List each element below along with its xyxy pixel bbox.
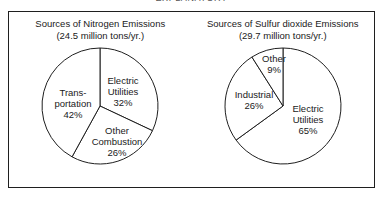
sulfur-chart-title: Sources of Sulfur dioxide Emissions (29.… [192,18,375,42]
clipped-top-title: EXPLANATORY [0,0,383,5]
panel-sulfur-dioxide-emissions: Sources of Sulfur dioxide Emissions (29.… [192,12,375,187]
sulfur-pie-chart: ElectricUtilities65%Industrial26%Other9% [218,42,348,172]
nitrogen-title-line-1: Sources of Nitrogen Emissions [9,18,192,30]
nitrogen-pie-chart: ElectricUtilities32%OtherCombustion26%Tr… [35,42,165,172]
sulfur-title-line-2: (29.7 million tons/yr.) [192,30,375,42]
figure-root: EXPLANATORY Sources of Nitrogen Emission… [0,0,383,205]
sulfur-title-line-1: Sources of Sulfur dioxide Emissions [192,18,375,30]
nitrogen-title-line-2: (24.5 million tons/yr.) [9,30,192,42]
nitrogen-chart-title: Sources of Nitrogen Emissions (24.5 mill… [9,18,192,42]
chart-frame: Sources of Nitrogen Emissions (24.5 mill… [8,11,375,188]
clipped-top-title-text: EXPLANATORY [0,0,383,3]
panel-nitrogen-emissions: Sources of Nitrogen Emissions (24.5 mill… [9,12,192,187]
